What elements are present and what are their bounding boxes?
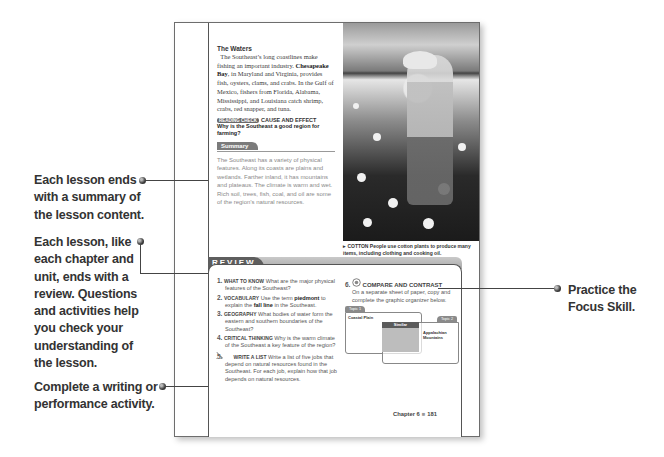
callout-summary-pin-icon xyxy=(139,177,146,184)
callout-review-leader-h xyxy=(140,273,208,274)
callout-focus-skill: Practice the Focus Skill. xyxy=(568,282,664,317)
focus-skill-instructions: On a separate sheet of paper, copy and c… xyxy=(345,289,457,304)
waters-section: The Waters The Southeast’s long coastlin… xyxy=(217,45,335,137)
summary-rule xyxy=(217,151,335,152)
term-fall-line: fall line xyxy=(254,302,273,308)
focus-skill-icon xyxy=(352,282,361,288)
summary-text: The Southeast has a variety of physical … xyxy=(217,156,335,206)
review-question-3: 3. GEOGRAPHY What bodies of water form t… xyxy=(217,310,341,333)
cotton-boll xyxy=(388,198,398,208)
callout-activity-leader xyxy=(166,386,208,387)
photo-caption: ▸ COTTON People use cotton plants to pro… xyxy=(343,243,479,257)
review-question-1: 1. WHAT TO KNOW What are the major physi… xyxy=(217,277,341,293)
waters-paragraph: The Southeast’s long coastlines make fis… xyxy=(217,53,335,114)
farmer-hat xyxy=(403,51,437,69)
term-piedmont: piedmont xyxy=(294,295,319,301)
cotton-boll xyxy=(363,218,372,227)
cotton-field-photo xyxy=(343,23,479,241)
graphic-organizer: Topic 1 Topic 2 Similar Coastal Plain Ap… xyxy=(345,306,457,366)
cotton-boll xyxy=(373,133,381,141)
review-question-4: 4. CRITICAL THINKING Why is the warm cli… xyxy=(217,334,341,350)
callout-review-leader-v xyxy=(140,244,141,273)
focus-skill-question: 6. COMPARE AND CONTRAST On a separate sh… xyxy=(345,278,457,304)
callout-focus-pin-icon xyxy=(554,285,561,292)
topic-2-label: Appalachian Mountains xyxy=(423,330,453,340)
callout-activity-pin-icon xyxy=(159,383,166,390)
pencil-icon xyxy=(224,351,232,359)
callout-summary-leader xyxy=(146,180,208,181)
summary-section: Summary The Southeast has a variety of p… xyxy=(217,134,335,206)
review-question-5: 5. WRITE A LIST Write a list of five job… xyxy=(217,351,341,383)
callout-summary: Each lesson ends with a summary of the l… xyxy=(34,172,146,224)
review-question-2: 2. VOCABULARY Use the term piedmont to e… xyxy=(217,294,341,310)
topic-1-label: Coastal Plain xyxy=(348,315,373,320)
page-footer: Chapter 6■181 xyxy=(393,411,437,417)
page-number: 181 xyxy=(427,411,437,417)
cotton-boll xyxy=(423,218,434,229)
section-heading: The Waters xyxy=(217,45,335,52)
callout-activity: Complete a writing or performance activi… xyxy=(34,379,164,414)
farmer-figure xyxy=(407,55,453,205)
textbook-page: The Waters The Southeast’s long coastlin… xyxy=(174,22,480,437)
callout-review: Each lesson, like each chapter and unit,… xyxy=(34,234,144,372)
similar-label: Similar xyxy=(382,322,419,328)
cotton-boll xyxy=(357,173,366,182)
cotton-boll xyxy=(353,103,359,109)
topic-2-tab: Topic 2 xyxy=(437,316,457,322)
cotton-boll xyxy=(458,143,466,151)
callout-focus-leader xyxy=(438,288,554,289)
summary-label: Summary xyxy=(217,142,258,150)
review-questions: 1. WHAT TO KNOW What are the major physi… xyxy=(217,277,341,384)
